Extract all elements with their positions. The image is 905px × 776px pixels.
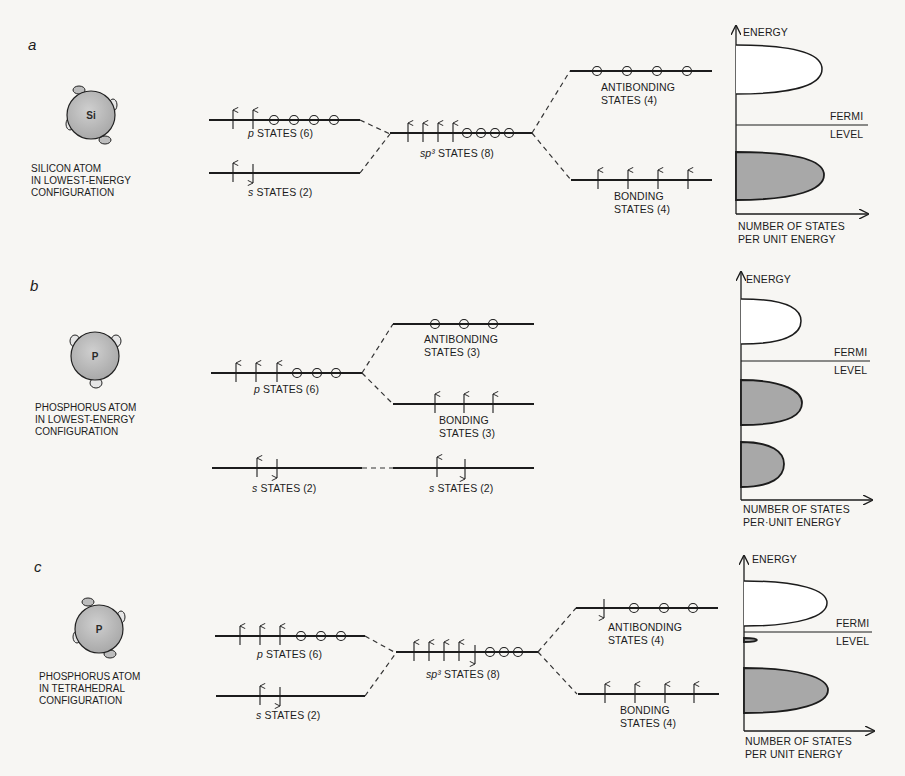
filled-band-s bbox=[741, 442, 784, 487]
level-label: ANTIBONDING bbox=[601, 81, 675, 93]
level-s-states: s STATES (2) bbox=[209, 163, 360, 198]
panel-b: b P PHOSPHORUS ATOM IN LOWEST-ENERGY CON… bbox=[30, 272, 872, 528]
level-label: STATES (4) bbox=[620, 717, 676, 729]
atom-caption-line-1: PHOSPHORUS ATOM bbox=[35, 402, 136, 413]
atom-caption-line-3: CONFIGURATION bbox=[35, 426, 118, 437]
level-label: ANTIBONDING bbox=[608, 621, 682, 633]
atom-silicon: Si bbox=[66, 86, 117, 144]
fermi-label: LEVEL bbox=[836, 635, 869, 647]
level-label: s STATES (2) bbox=[252, 482, 316, 494]
filled-band bbox=[744, 668, 828, 713]
level-p-states: p STATES (6) bbox=[211, 363, 362, 395]
states-axis-label: NUMBER OF STATES bbox=[743, 503, 850, 515]
energy-axis-label: ENERGY bbox=[752, 553, 797, 565]
level-label: s STATES (2) bbox=[256, 709, 320, 721]
hybridization-connector bbox=[360, 134, 390, 173]
fermi-label: LEVEL bbox=[830, 128, 863, 140]
atom-symbol: Si bbox=[86, 110, 96, 121]
density-of-states-plot: ENERGY FERMI LEVEL NUMBER OF STATES PER … bbox=[736, 26, 868, 245]
fermi-label: FERMI bbox=[830, 110, 863, 122]
atom-caption-line-2: IN LOWEST-ENERGY bbox=[35, 414, 135, 425]
level-antibonding: ANTIBONDING STATES (3) bbox=[393, 320, 534, 359]
atom-caption-line-1: PHOSPHORUS ATOM bbox=[39, 671, 140, 682]
level-label: STATES (4) bbox=[608, 634, 664, 646]
filled-band bbox=[736, 152, 824, 200]
level-bonding: BONDING STATES (3) bbox=[393, 394, 534, 439]
level-bonding: BONDING STATES (4) bbox=[578, 684, 719, 729]
splitting-connector bbox=[538, 608, 576, 652]
atom-caption-line-3: CONFIGURATION bbox=[31, 187, 114, 198]
panel-letter: a bbox=[28, 36, 36, 53]
panel-letter: c bbox=[34, 558, 42, 575]
atom-caption-line-3: CONFIGURATION bbox=[39, 695, 122, 706]
level-label: sp³ STATES (8) bbox=[426, 668, 500, 680]
level-label: sp³ STATES (8) bbox=[420, 147, 494, 159]
hybridization-connector bbox=[365, 653, 396, 696]
atom-caption-line-2: IN LOWEST-ENERGY bbox=[31, 175, 131, 186]
hybridization-connector bbox=[365, 636, 396, 653]
level-p-states: p STATES (6) bbox=[209, 110, 360, 139]
level-s-states-molecular: s STATES (2) bbox=[393, 457, 534, 494]
panel-letter: b bbox=[30, 277, 38, 294]
states-axis-label: PER UNIT ENERGY bbox=[745, 748, 843, 760]
filled-band-bonding bbox=[741, 380, 802, 425]
level-label: ANTIBONDING bbox=[424, 333, 498, 345]
atom-phosphorus: P bbox=[70, 332, 121, 388]
empty-band bbox=[736, 45, 822, 94]
fermi-label: LEVEL bbox=[834, 364, 867, 376]
donor-level-band bbox=[744, 638, 757, 642]
states-axis-label: NUMBER OF STATES bbox=[738, 220, 845, 232]
energy-axis-label: ENERGY bbox=[746, 273, 791, 285]
atom-caption-line-1: SILICON ATOM bbox=[31, 163, 101, 174]
level-label: s STATES (2) bbox=[429, 482, 493, 494]
level-antibonding: ANTIBONDING STATES (4) bbox=[570, 67, 712, 107]
level-label: STATES (4) bbox=[614, 203, 670, 215]
level-label: p STATES (6) bbox=[256, 648, 322, 660]
level-label: STATES (3) bbox=[424, 346, 480, 358]
splitting-connector bbox=[362, 373, 393, 404]
empty-band bbox=[741, 299, 801, 344]
energy-level-diagram: a Si SILICON ATOM IN LOWEST-ENERGY CONFI… bbox=[0, 0, 905, 776]
level-label: BONDING bbox=[614, 190, 664, 202]
level-label: BONDING bbox=[439, 414, 489, 426]
energy-axis-label: ENERGY bbox=[743, 26, 788, 38]
splitting-connector bbox=[538, 652, 577, 694]
states-axis-label: NUMBER OF STATES bbox=[745, 735, 852, 747]
atom-symbol: P bbox=[92, 351, 99, 362]
level-label: BONDING bbox=[620, 704, 670, 716]
panel-a: a Si SILICON ATOM IN LOWEST-ENERGY CONFI… bbox=[28, 26, 868, 245]
splitting-connector bbox=[532, 133, 571, 180]
splitting-connector bbox=[532, 71, 570, 133]
level-p-states: p STATES (6) bbox=[215, 626, 365, 660]
hybridization-connector bbox=[360, 120, 390, 134]
level-label: s STATES (2) bbox=[248, 186, 312, 198]
empty-band bbox=[744, 581, 827, 626]
level-antibonding: ANTIBONDING STATES (4) bbox=[576, 599, 718, 646]
states-axis-label: PER·UNIT ENERGY bbox=[743, 516, 841, 528]
level-bonding: BONDING STATES (4) bbox=[571, 170, 712, 215]
fermi-label: FERMI bbox=[836, 617, 869, 629]
level-s-states: s STATES (2) bbox=[212, 458, 362, 494]
atom-phosphorus-tetrahedral: P bbox=[73, 598, 125, 658]
panel-c: c P PHOSPHORUS ATOM IN TETRAHEDRAL CONFI… bbox=[34, 553, 874, 760]
level-sp3-states: sp³ STATES (8) bbox=[396, 642, 538, 680]
atom-symbol: P bbox=[96, 624, 103, 635]
fermi-label: FERMI bbox=[834, 346, 867, 358]
splitting-connector bbox=[362, 324, 393, 373]
level-sp3-states: sp³ STATES (8) bbox=[390, 123, 532, 159]
level-label: p STATES (6) bbox=[253, 383, 319, 395]
density-of-states-plot: ENERGY FERMI LEVEL NUMBER OF STATES PER·… bbox=[741, 272, 872, 528]
states-axis-label: PER UNIT ENERGY bbox=[738, 233, 836, 245]
density-of-states-plot: ENERGY FERMI LEVEL NUMBER OF STATES PER … bbox=[744, 553, 874, 760]
level-label: STATES (3) bbox=[439, 427, 495, 439]
atom-caption-line-2: IN TETRAHEDRAL bbox=[39, 683, 125, 694]
level-label: STATES (4) bbox=[601, 94, 657, 106]
level-label: p STATES (6) bbox=[247, 127, 313, 139]
level-s-states: s STATES (2) bbox=[216, 686, 365, 721]
